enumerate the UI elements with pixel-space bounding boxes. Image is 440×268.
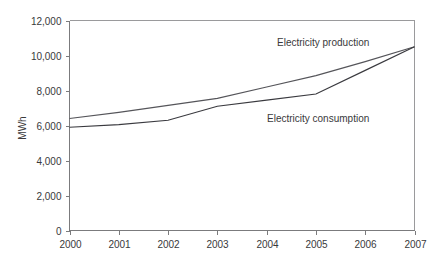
- x-axis-ticks: [71, 231, 416, 235]
- x-tick-label: 2003: [206, 239, 229, 250]
- y-axis-ticks: [66, 22, 70, 232]
- y-tick-label: 8,000: [36, 86, 61, 97]
- x-tick-label: 2000: [59, 239, 82, 250]
- y-tick-label: 10,000: [31, 51, 62, 62]
- x-axis-tick-labels: 20002001200220032004200520062007: [59, 239, 427, 250]
- y-tick-label: 0: [56, 226, 62, 237]
- y-tick-label: 4,000: [36, 156, 61, 167]
- y-axis-tick-labels: 02,0004,0006,0008,00010,00012,000: [31, 16, 62, 237]
- series-annotation-electricity-production: Electricity production: [277, 37, 369, 48]
- y-tick-label: 2,000: [36, 191, 61, 202]
- x-tick-label: 2004: [256, 239, 279, 250]
- series-annotations: Electricity productionElectricity consum…: [267, 37, 369, 124]
- plot-frame-top-right: [70, 21, 415, 231]
- x-tick-label: 2007: [404, 239, 427, 250]
- line-chart: 02,0004,0006,0008,00010,00012,000 200020…: [0, 0, 440, 268]
- y-tick-label: 6,000: [36, 121, 61, 132]
- y-tick-label: 12,000: [31, 16, 62, 27]
- x-tick-label: 2002: [157, 239, 180, 250]
- series-line-electricity-production: [70, 47, 415, 119]
- y-axis-title: MWh: [17, 116, 28, 139]
- x-tick-label: 2001: [108, 239, 131, 250]
- x-tick-label: 2005: [305, 239, 328, 250]
- x-tick-label: 2006: [354, 239, 377, 250]
- chart-container: 02,0004,0006,0008,00010,00012,000 200020…: [0, 0, 440, 268]
- series-annotation-electricity-consumption: Electricity consumption: [267, 113, 369, 124]
